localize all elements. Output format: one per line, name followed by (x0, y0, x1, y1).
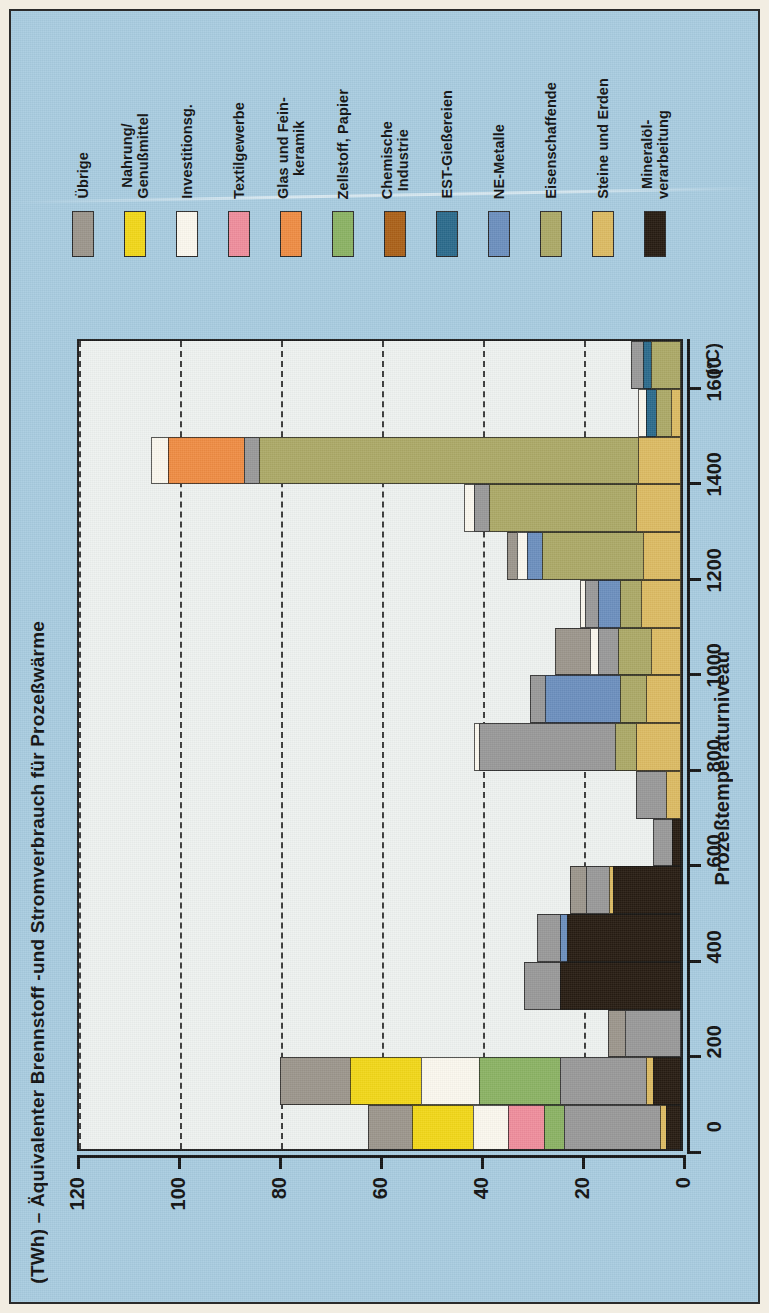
legend-swatch-box (367, 211, 423, 257)
bar-segment (671, 389, 681, 437)
legend-item: NE-Metalle (471, 29, 527, 199)
bar-segment (507, 532, 517, 580)
legend-item: Übrige (55, 29, 111, 199)
category-axis-tick (687, 1151, 701, 1154)
value-axis-tick (380, 1155, 383, 1169)
bar-segment (570, 866, 586, 914)
bar-segment (620, 675, 645, 723)
category-axis-tick (687, 387, 701, 390)
category-axis-tick (687, 673, 701, 676)
legend-swatch-box (523, 211, 579, 257)
bar-segment (564, 1105, 660, 1151)
category-axis-label: 1000 (703, 643, 726, 688)
category-axis-label: 600 (703, 834, 726, 867)
bar-segment (280, 1057, 351, 1105)
legend-label: NE-Metalle (491, 124, 507, 199)
category-axis-tick (687, 578, 701, 581)
legend-color-swatch (72, 211, 94, 257)
bar-stack (464, 484, 681, 532)
legend-item: Eisenschaffende (523, 29, 579, 199)
value-axis-tick (481, 1155, 484, 1169)
bar-segment (598, 580, 621, 628)
bar-segment (672, 819, 681, 867)
category-axis-tick (687, 960, 701, 963)
legend-color-swatch (384, 211, 406, 257)
legend-label: Textilgewerbe (231, 102, 247, 199)
legend-label: Glas und Fein- keramik (275, 97, 307, 199)
bar-stack (608, 1010, 681, 1058)
bar-segment (545, 675, 621, 723)
bar-segment (151, 437, 169, 485)
bar-segment (646, 675, 681, 723)
plot-wrapper: 020406080100120 (77, 339, 683, 1169)
value-axis-label: 40 (470, 1177, 493, 1199)
legend-label: Übrige (75, 152, 91, 199)
bar-segment (560, 914, 568, 962)
bar-segment (625, 1010, 681, 1058)
legend-color-swatch (644, 211, 666, 257)
category-axis-tick (687, 769, 701, 772)
bar-segment (567, 914, 681, 962)
category-axis-tick (687, 864, 701, 867)
value-axis-tick (178, 1155, 181, 1169)
category-axis-label: 1400 (703, 452, 726, 497)
legend-item: Nahrung/ Genußmittel (107, 29, 163, 199)
category-axis-tick (687, 1055, 701, 1058)
bar-segment (479, 1057, 560, 1105)
bar-stack (636, 771, 681, 819)
category-axis-label: 0 (703, 1121, 726, 1132)
value-axis-label: 80 (268, 1177, 291, 1199)
gridline (79, 341, 81, 1149)
bar-segment (368, 1105, 412, 1151)
bar-stack (631, 341, 681, 389)
bar-segment (542, 532, 643, 580)
legend-label: Steine und Erden (595, 78, 611, 199)
bar-stack (555, 628, 681, 676)
figure-panel: ÜbrigeNahrung/ GenußmittelInvestitionsg.… (9, 9, 760, 1304)
bar-segment (666, 771, 681, 819)
legend-swatch-box (419, 211, 475, 257)
bar-segment (643, 341, 651, 389)
bar-segment (613, 866, 681, 914)
legend-swatch-box (55, 211, 111, 257)
legend-item: EST-Gießereien (419, 29, 475, 199)
legend-item: Investitionsg. (159, 29, 215, 199)
bar-segment (350, 1057, 421, 1105)
legend-label: Eisenschaffende (543, 82, 559, 199)
bar-segment (474, 484, 489, 532)
value-axis-label: 120 (66, 1177, 89, 1210)
legend: ÜbrigeNahrung/ GenußmittelInvestitionsg.… (11, 11, 760, 281)
bar-segment (598, 628, 618, 676)
value-axis-label: 60 (369, 1177, 392, 1199)
legend-item: Mineralöl- verarbeitung (627, 29, 683, 199)
legend-label: Zellstoff, Papier (335, 89, 351, 199)
value-axis-tick (77, 1155, 80, 1169)
legend-swatch-box (575, 211, 631, 257)
value-axis-tick (683, 1155, 686, 1169)
bar-segment (479, 723, 615, 771)
value-axis-label: 0 (672, 1177, 695, 1188)
bar-segment (168, 437, 244, 485)
category-axis (683, 339, 697, 1151)
bar-segment (636, 771, 666, 819)
value-axis-tick (582, 1155, 585, 1169)
bar-segment (631, 341, 644, 389)
bar-stack (151, 437, 681, 485)
legend-swatch-box (107, 211, 163, 257)
bar-segment (618, 628, 651, 676)
bar-segment (653, 819, 672, 867)
bar-segment (560, 1057, 646, 1105)
category-axis-label: 400 (703, 930, 726, 963)
bar-segment (636, 723, 681, 771)
bar-stack (570, 866, 681, 914)
bar-segment (615, 723, 635, 771)
bar-stack (280, 1057, 681, 1105)
bar-stack (580, 580, 681, 628)
legend-label: Chemische Industrie (379, 121, 411, 199)
bar-segment (421, 1057, 479, 1105)
bar-segment (653, 1057, 681, 1105)
legend-color-swatch (332, 211, 354, 257)
legend-swatch-box (471, 211, 527, 257)
bar-segment (656, 389, 671, 437)
legend-color-swatch (488, 211, 510, 257)
